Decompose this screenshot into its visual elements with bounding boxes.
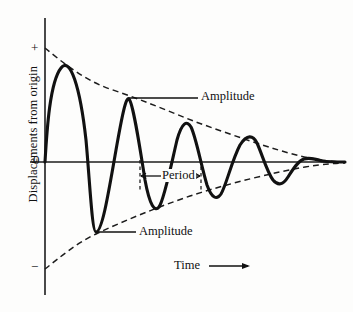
y-axis-title: Displacements from origin <box>27 54 40 214</box>
damped-oscillation-curve <box>45 65 345 232</box>
time-direction-arrow <box>209 263 250 269</box>
upper-envelope-curve <box>45 48 345 162</box>
y-axis-tick-zero: 0 <box>33 153 40 166</box>
y-axis-tick-positive: + <box>31 41 38 54</box>
x-axis-title: Time <box>174 259 200 272</box>
y-axis-tick-negative: − <box>31 260 38 273</box>
annotation-amplitude-top: Amplitude <box>201 90 254 103</box>
figure-canvas: Displacements from origin + 0 − Amplitud… <box>0 0 353 312</box>
annotation-amplitude-bottom: Amplitude <box>139 225 192 238</box>
annotation-period: Period <box>161 169 196 182</box>
